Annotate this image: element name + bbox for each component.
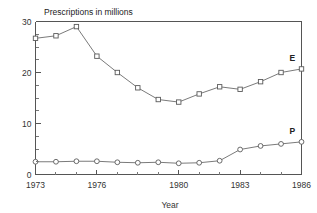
chart-title: Prescriptions in millions [44,7,133,17]
data-point-E [54,34,58,38]
data-point-E [197,92,201,96]
chart-tick-labels: 010203019731976198019831986 [22,17,311,190]
data-point-E [136,86,140,90]
data-point-P [74,159,79,164]
data-point-P [115,160,120,165]
data-point-E [33,36,37,40]
data-point-P [54,159,59,164]
data-point-E [217,85,221,89]
x-tick-label: 1973 [26,180,45,190]
chart-axes-layer [36,22,302,175]
x-tick-label: 1980 [169,180,188,190]
data-point-E [177,100,181,104]
data-point-E [299,67,303,71]
x-tick-label: 1983 [231,180,250,190]
data-point-P [299,139,304,144]
data-point-E [156,97,160,101]
data-point-P [279,142,284,147]
data-point-E [258,79,262,83]
series-label-P: P [290,126,296,136]
x-axis-label: Year [161,200,178,210]
chart-frame [36,22,302,175]
x-tick-label: 1976 [87,180,106,190]
data-point-E [115,70,119,74]
series-labels: EP [290,53,296,136]
data-point-P [135,160,140,165]
chart-container: Prescriptions in millions Year 010203019… [0,0,317,213]
series-line-E [36,27,302,102]
line-chart: Prescriptions in millions Year 010203019… [0,0,317,213]
data-point-P [238,147,243,152]
y-tick-label: 30 [22,17,32,27]
data-point-E [74,24,78,28]
data-point-P [176,161,181,166]
data-point-P [197,160,202,165]
series-label-E: E [290,53,296,63]
y-tick-label: 0 [27,170,32,180]
data-point-E [95,54,99,58]
chart-series-layer [33,24,304,165]
data-point-E [279,70,283,74]
y-tick-label: 10 [22,119,32,129]
data-point-P [217,158,222,163]
x-tick-label: 1986 [292,180,311,190]
data-point-P [94,159,99,164]
data-point-E [238,87,242,91]
data-point-P [156,160,161,165]
y-tick-label: 20 [22,68,32,78]
data-point-P [258,144,263,149]
